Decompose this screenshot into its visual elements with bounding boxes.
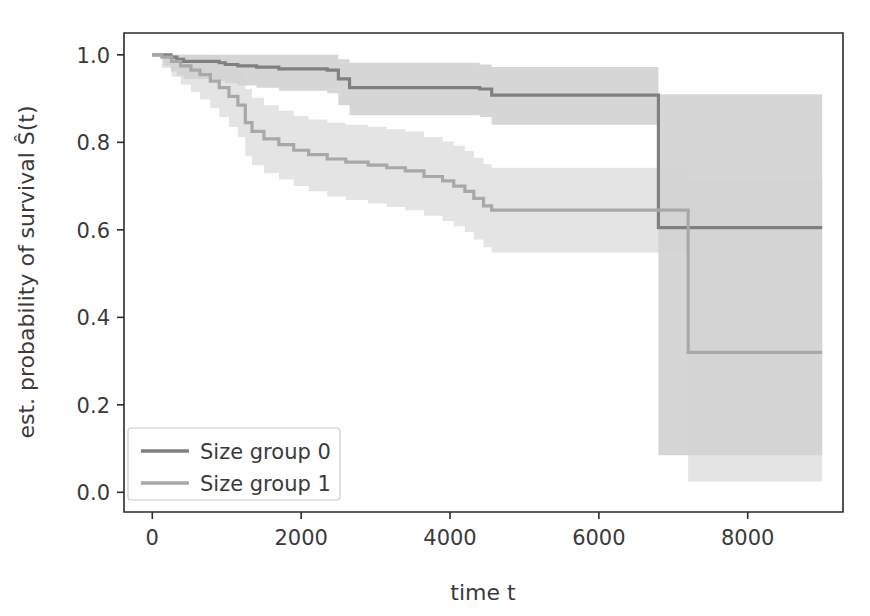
x-tick-label: 6000 [572, 526, 625, 550]
confidence-bands-layer [152, 55, 822, 482]
y-tick-label: 0.0 [77, 481, 110, 505]
y-tick-label: 0.8 [77, 131, 110, 155]
y-axis-ticks: 0.00.20.40.60.81.0 [77, 44, 124, 505]
chart-legend[interactable]: Size group 0 Size group 1 [128, 428, 340, 500]
x-axis-ticks: 02000400060008000 [146, 512, 775, 550]
y-axis-label: est. probability of survival Ŝ(t) [14, 105, 39, 438]
y-tick-label: 1.0 [77, 44, 110, 68]
x-tick-label: 8000 [721, 526, 774, 550]
y-tick-label: 0.4 [77, 306, 110, 330]
x-tick-label: 4000 [423, 526, 476, 550]
legend-label-size-group-1: Size group 1 [200, 472, 331, 496]
x-axis-label: time t [450, 580, 516, 605]
figure-canvas: 02000400060008000 0.00.20.40.60.81.0 tim… [0, 0, 870, 616]
y-tick-label: 0.6 [77, 219, 110, 243]
y-tick-label: 0.2 [77, 394, 110, 418]
x-tick-label: 0 [146, 526, 159, 550]
legend-label-size-group-0: Size group 0 [200, 440, 331, 464]
survival-curve-chart: 02000400060008000 0.00.20.40.60.81.0 tim… [0, 0, 870, 616]
x-tick-label: 2000 [274, 526, 327, 550]
